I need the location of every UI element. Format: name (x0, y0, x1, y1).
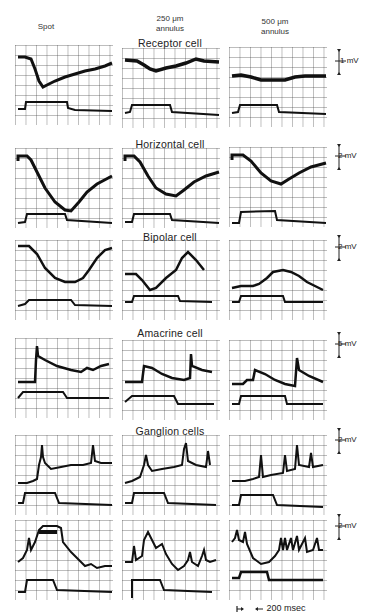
scale-label-bipolar: 2 mV (338, 242, 357, 251)
scale-label-amacrine: 5 mV (338, 339, 357, 348)
scale-label-ganglion2: 2 mV (338, 521, 357, 530)
panel-ganglion2-spot (15, 520, 113, 600)
panel-ganglion1-250um (122, 435, 220, 515)
time-scale-bar: 200 msec (236, 603, 306, 613)
column-header-250um-line1: 250 μm (145, 14, 195, 24)
scale-bar-receptor: 1 mV (334, 48, 364, 76)
panel-bipolar-500um (229, 240, 327, 320)
column-header-500um-line2: annulus (250, 27, 300, 37)
panel-ganglion1-500um (229, 435, 327, 515)
scale-bar-horizontal: 2 mV (334, 143, 364, 171)
panel-receptor-spot (15, 45, 113, 125)
panel-bipolar-spot (15, 240, 113, 320)
scale-bar-ganglion2: 2 mV (334, 513, 364, 541)
panel-amacrine-250um (122, 340, 220, 420)
panel-ganglion2-250um (122, 520, 220, 600)
panel-amacrine-500um (229, 340, 327, 420)
column-header-250um-line2: annulus (145, 24, 195, 34)
column-header-500um: 500 μm annulus (250, 17, 300, 37)
column-header-spot: Spot (26, 22, 66, 32)
panel-bipolar-250um (122, 240, 220, 320)
scale-label-ganglion1: 2 mV (338, 435, 357, 444)
scale-bar-ganglion1: 2 mV (334, 427, 364, 455)
panel-ganglion1-spot (15, 435, 113, 515)
panel-receptor-250um (122, 48, 220, 128)
scale-bar-bipolar: 2 mV (334, 234, 364, 262)
panel-horizontal-spot (15, 148, 113, 228)
scale-label-horizontal: 2 mV (338, 151, 357, 160)
panel-horizontal-500um (229, 147, 327, 227)
panel-horizontal-250um (122, 148, 220, 228)
panel-ganglion2-500um (229, 520, 327, 600)
panel-amacrine-spot (15, 338, 113, 418)
row-title-amacrine: Amacrine cell (110, 327, 230, 339)
column-header-500um-line1: 500 μm (250, 17, 300, 27)
time-scale-label: 200 msec (267, 603, 306, 613)
scale-bar-amacrine: 5 mV (334, 331, 364, 359)
time-scale-arrows-icon (236, 605, 264, 613)
column-header-250um: 250 μm annulus (145, 14, 195, 34)
panel-receptor-500um (229, 47, 327, 127)
scale-label-receptor: 1 mV (340, 56, 359, 65)
